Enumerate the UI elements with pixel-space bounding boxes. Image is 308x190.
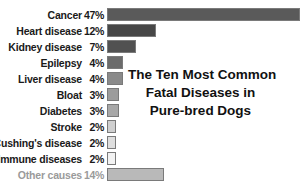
bar (107, 72, 123, 85)
bar (107, 168, 164, 181)
value-label: 4% (84, 56, 104, 70)
category-label: Immune diseases (0, 152, 82, 166)
value-label: 12% (84, 24, 104, 38)
chart-title-line: The Ten Most Common (128, 66, 273, 84)
value-label: 3% (84, 104, 104, 118)
bar (107, 136, 116, 149)
bar (107, 8, 300, 21)
chart-row-kidney-disease: Kidney disease 7% (0, 40, 308, 54)
value-label: 14% (84, 168, 104, 182)
value-label: 47% (84, 8, 104, 22)
category-label: Heart disease (16, 24, 82, 38)
category-label: Cancer (48, 8, 82, 22)
category-label: Diabetes (40, 104, 82, 118)
bar (107, 56, 123, 69)
bar (107, 24, 156, 37)
bar (107, 40, 136, 53)
chart-row-stroke: Stroke 2% (0, 120, 308, 134)
bar (107, 120, 116, 133)
value-label: 4% (84, 72, 104, 86)
value-label: 3% (84, 88, 104, 102)
value-label: 7% (84, 40, 104, 54)
category-label: Kidney disease (8, 40, 82, 54)
value-label: 2% (84, 152, 104, 166)
category-label: Stroke (51, 120, 82, 134)
bar (107, 88, 119, 101)
chart-row-heart-disease: Heart disease 12% (0, 24, 308, 38)
chart-title-line: Fatal Diseases in (128, 84, 273, 102)
chart-title-line: Pure-bred Dogs (128, 102, 273, 120)
category-label: Epilepsy (40, 56, 82, 70)
category-label: Liver disease (18, 72, 82, 86)
bar (107, 152, 116, 165)
category-label: Other causes (18, 168, 82, 182)
value-label: 2% (84, 136, 104, 150)
chart-row-other-causes: Other causes 14% (0, 168, 308, 182)
chart-title: The Ten Most Common Fatal Diseases in Pu… (128, 66, 273, 120)
chart-row-cushings-disease: Cushing's disease 2% (0, 136, 308, 150)
category-label: Cushing's disease (0, 136, 82, 150)
chart-row-cancer: Cancer 47% (0, 8, 308, 22)
bar-chart: Cancer 47% Heart disease 12% Kidney dise… (0, 0, 308, 190)
value-label: 2% (84, 120, 104, 134)
category-label: Bloat (57, 88, 82, 102)
bar (107, 104, 119, 117)
chart-row-immune-diseases: Immune diseases 2% (0, 152, 308, 166)
